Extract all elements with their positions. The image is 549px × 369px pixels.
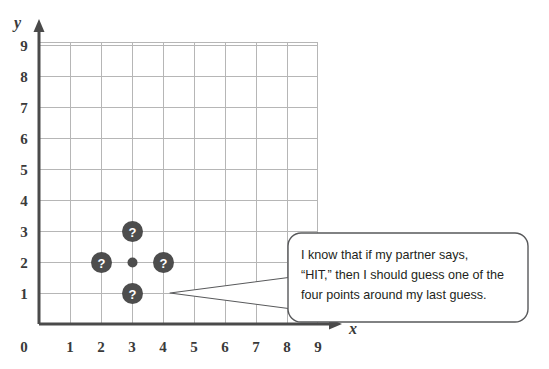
x-tick-label-2: 2 xyxy=(97,339,105,355)
x-tick-label-5: 5 xyxy=(190,339,198,355)
x-tick-label-7: 7 xyxy=(252,339,260,355)
callout-line-3: four points around my last guess. xyxy=(301,288,487,302)
y-tick-label-7: 7 xyxy=(20,100,28,116)
x-tick-label-4: 4 xyxy=(159,339,167,355)
y-tick-label-2: 2 xyxy=(20,255,28,271)
y-axis-label: y xyxy=(12,14,22,32)
callout-line-1: I know that if my partner says, xyxy=(301,248,468,262)
y-tick-label-6: 6 xyxy=(20,131,28,147)
callout-line-2: “HIT,” then I should guess one of the xyxy=(301,268,504,282)
point-label-4-2: ? xyxy=(160,256,168,271)
x-tick-label-6: 6 xyxy=(221,339,229,355)
y-tick-label-3: 3 xyxy=(20,224,28,240)
y-tick-label-9: 9 xyxy=(20,38,28,54)
point-marker-2-2[interactable]: ? xyxy=(91,252,112,273)
y-tick-label-4: 4 xyxy=(20,193,28,209)
origin-tick-label: 0 xyxy=(20,339,28,355)
point-label-3-1: ? xyxy=(129,287,137,302)
x-tick-label-8: 8 xyxy=(283,339,291,355)
y-tick-labels: 1 2 3 4 5 6 7 8 9 xyxy=(20,38,28,302)
point-label-2-2: ? xyxy=(98,256,106,271)
y-axis-arrowhead-icon xyxy=(34,19,45,32)
x-tick-labels: 1 2 3 4 5 6 7 8 9 xyxy=(66,339,322,355)
figure-container: y x 0 1 2 3 4 5 6 7 8 9 1 2 3 4 5 6 7 8 … xyxy=(0,0,549,369)
callout-tail xyxy=(170,276,300,310)
point-marker-3-1[interactable]: ? xyxy=(122,283,143,304)
point-label-3-3: ? xyxy=(129,225,137,240)
point-marker-4-2[interactable]: ? xyxy=(153,252,174,273)
point-marker-3-3[interactable]: ? xyxy=(122,221,143,242)
y-tick-label-1: 1 xyxy=(20,286,28,302)
x-tick-label-3: 3 xyxy=(128,339,136,355)
y-tick-label-8: 8 xyxy=(20,69,28,85)
x-tick-label-1: 1 xyxy=(66,339,74,355)
coordinate-grid-figure: y x 0 1 2 3 4 5 6 7 8 9 1 2 3 4 5 6 7 8 … xyxy=(0,0,549,369)
last-guess-dot[interactable] xyxy=(128,258,138,268)
x-tick-label-9: 9 xyxy=(314,339,322,355)
y-tick-label-5: 5 xyxy=(20,162,28,178)
